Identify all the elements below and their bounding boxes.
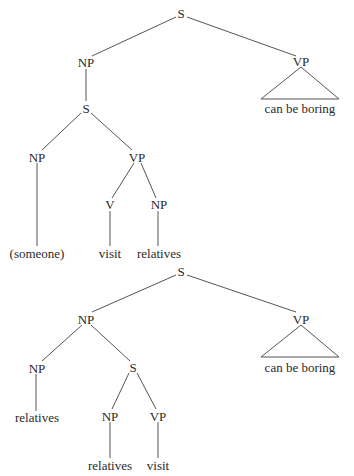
tree1-s-root: S [177, 7, 184, 20]
tree2-vp-leaf: can be boring [265, 361, 336, 374]
tree1-leaf-visit: visit [99, 247, 121, 260]
tree1-leaf-relatives: relatives [137, 247, 181, 260]
tree2-np: NP [78, 313, 95, 326]
tree1-vp-leaf: can be boring [265, 102, 336, 115]
tree1-v: V [105, 198, 114, 211]
tree1-np-subject: NP [29, 151, 46, 164]
tree2-s-root: S [177, 265, 184, 278]
tree2-leaf-relatives: relatives [88, 459, 132, 472]
tree2-leaf-relatives-head: relatives [15, 411, 59, 424]
tree2-np-relative: NP [102, 410, 119, 423]
tree2-np-head: NP [29, 362, 46, 375]
tree2-vp: VP [293, 313, 310, 326]
tree1-s-inner: S [82, 102, 89, 115]
tree2-vp-relative: VP [150, 410, 167, 423]
tree2-leaf-visit: visit [147, 459, 169, 472]
tree1-vp: VP [293, 55, 310, 68]
tree1-np-object: NP [151, 198, 168, 211]
tree1-vp-inner: VP [129, 151, 146, 164]
tree-edges [0, 0, 354, 476]
tree1-np: NP [78, 56, 95, 69]
tree2-s-relative: S [129, 361, 136, 374]
tree1-leaf-someone: (someone) [10, 247, 65, 260]
